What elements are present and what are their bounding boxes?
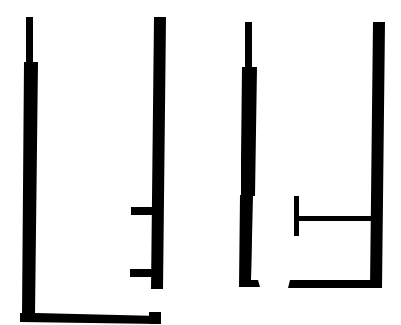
- left-room-stub-lower: [130, 269, 152, 277]
- floor-plan-diagram: [0, 0, 401, 325]
- background: [0, 0, 401, 325]
- left-room-bottom-corner: [149, 312, 161, 324]
- left-room-stub-upper: [131, 207, 153, 215]
- right-room-bottom-wall: [288, 280, 382, 288]
- right-room-partition-horizontal: [298, 216, 372, 221]
